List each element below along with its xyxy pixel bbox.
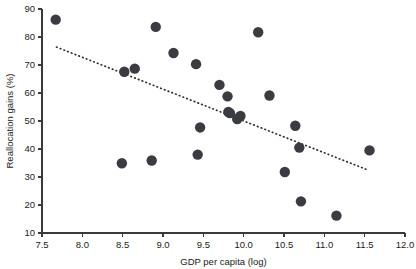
y-tick-label: 50 bbox=[24, 115, 35, 126]
x-tick-label: 7.5 bbox=[35, 239, 48, 250]
data-point bbox=[191, 59, 201, 69]
x-tick-label: 9.0 bbox=[156, 239, 169, 250]
data-point bbox=[253, 27, 263, 37]
data-point bbox=[192, 149, 202, 159]
y-axis-tick-marks bbox=[38, 9, 42, 233]
x-axis-title: GDP per capita (log) bbox=[180, 256, 266, 267]
data-point bbox=[264, 90, 274, 100]
data-point bbox=[280, 167, 290, 177]
y-tick-label: 20 bbox=[24, 199, 35, 210]
data-points-group bbox=[51, 14, 375, 220]
x-tick-label: 9.5 bbox=[197, 239, 210, 250]
scatter-plot-figure: 102030405060708090 7.58.08.59.09.510.010… bbox=[0, 0, 416, 269]
y-tick-label: 80 bbox=[24, 31, 35, 42]
data-point bbox=[364, 145, 374, 155]
data-point bbox=[147, 155, 157, 165]
data-point bbox=[222, 91, 232, 101]
x-tick-label: 12.0 bbox=[396, 239, 415, 250]
data-point bbox=[51, 14, 61, 24]
x-tick-label: 10.0 bbox=[234, 239, 253, 250]
data-point bbox=[294, 142, 304, 152]
x-tick-label: 8.5 bbox=[116, 239, 129, 250]
x-tick-label: 8.0 bbox=[76, 239, 89, 250]
x-tick-label: 11.5 bbox=[356, 239, 374, 250]
data-point bbox=[290, 121, 300, 131]
y-tick-label: 40 bbox=[24, 143, 35, 154]
data-point bbox=[195, 122, 205, 132]
chart-canvas: 102030405060708090 7.58.08.59.09.510.010… bbox=[0, 0, 416, 269]
y-tick-label: 60 bbox=[24, 87, 35, 98]
data-point bbox=[151, 22, 161, 32]
data-point bbox=[214, 80, 224, 90]
data-point bbox=[168, 48, 178, 58]
data-point bbox=[130, 63, 140, 73]
y-axis-title: Reallocation gains (%) bbox=[4, 73, 15, 168]
trend-line bbox=[57, 47, 368, 170]
x-tick-label: 11.0 bbox=[315, 239, 333, 250]
x-axis-tick-labels: 7.58.08.59.09.510.010.511.011.512.0 bbox=[35, 239, 414, 250]
data-point bbox=[117, 158, 127, 168]
y-tick-label: 70 bbox=[24, 59, 35, 70]
x-axis-tick-marks bbox=[42, 233, 405, 237]
data-point bbox=[331, 210, 341, 220]
data-point bbox=[235, 111, 245, 121]
y-tick-label: 90 bbox=[24, 3, 35, 14]
data-point bbox=[296, 196, 306, 206]
data-point bbox=[119, 67, 129, 77]
y-tick-label: 30 bbox=[24, 171, 35, 182]
y-axis-tick-labels: 102030405060708090 bbox=[24, 3, 35, 238]
x-tick-label: 10.5 bbox=[275, 239, 294, 250]
y-tick-label: 10 bbox=[24, 227, 35, 238]
